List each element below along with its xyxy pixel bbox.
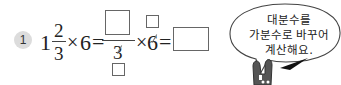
bubble-text: 대분수를 가분수로 바꾸어 계산해요. bbox=[243, 13, 335, 58]
multiplier: 6 bbox=[80, 32, 91, 54]
problem-number-badge: 1 bbox=[14, 31, 32, 49]
mixed-fraction-line bbox=[52, 41, 66, 42]
final-answer-box[interactable] bbox=[173, 27, 209, 51]
bubble-line-1: 대분수를 bbox=[243, 13, 335, 28]
mixed-denominator: 3 bbox=[54, 44, 64, 63]
improper-numerator-box[interactable] bbox=[105, 10, 130, 35]
times-sign: × bbox=[67, 32, 78, 52]
bubble-line-2: 가분수로 바꾸어 bbox=[243, 28, 335, 43]
mixed-numerator: 2 bbox=[54, 21, 64, 40]
rabbit-icon bbox=[250, 56, 280, 85]
step-equals-sign: = bbox=[159, 31, 171, 53]
equals-sign: = bbox=[92, 31, 104, 53]
mixed-whole: 1 bbox=[40, 32, 51, 54]
step-fraction-line bbox=[102, 40, 135, 41]
cancel-denominator-box[interactable] bbox=[112, 63, 125, 76]
cancel-multiplier-box[interactable] bbox=[146, 15, 159, 28]
step-times-sign: × bbox=[136, 32, 147, 52]
